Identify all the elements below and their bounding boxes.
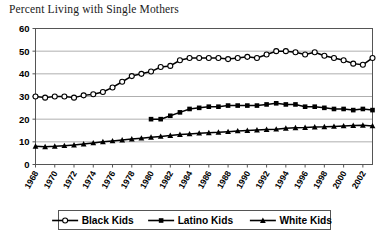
data-point-marker (33, 94, 38, 99)
data-point-marker (254, 55, 259, 60)
data-point-marker (312, 50, 317, 55)
data-point-marker (274, 49, 279, 54)
data-point-marker (62, 94, 67, 99)
x-tick-label: 1994 (273, 169, 291, 191)
data-point-marker (168, 113, 173, 118)
x-axis-labels: 1968197019721974197619781980198219841986… (22, 165, 368, 191)
chart-legend: Black KidsLatino KidsWhite Kids (52, 211, 332, 230)
y-tick-label: 20 (19, 114, 30, 125)
data-point-marker (370, 55, 375, 60)
data-point-marker (360, 62, 365, 67)
data-point-marker (207, 104, 212, 109)
data-point-marker (370, 108, 375, 113)
x-tick-label: 1998 (311, 169, 329, 191)
data-point-marker (187, 55, 192, 60)
data-point-marker (322, 106, 327, 111)
data-point-marker (110, 85, 115, 90)
y-tick-label: 40 (19, 68, 30, 79)
data-point-marker (129, 74, 134, 79)
data-point-marker (216, 55, 221, 60)
data-point-marker (341, 58, 346, 63)
data-point-marker (322, 53, 327, 58)
x-tick-label: 1970 (41, 169, 59, 191)
data-point-marker (235, 103, 240, 108)
x-tick-label: 1986 (196, 169, 214, 191)
data-point-marker (303, 104, 308, 109)
data-point-marker (351, 108, 356, 113)
data-point-marker (149, 69, 154, 74)
data-point-marker (284, 102, 289, 107)
data-point-marker (283, 49, 288, 54)
data-point-marker (303, 52, 308, 57)
x-tick-label: 2000 (330, 169, 348, 191)
chart-figure: Percent Living with Single Mothers 01020… (0, 0, 387, 242)
y-tick-label: 60 (19, 23, 30, 34)
data-point-marker (159, 218, 164, 223)
data-point-marker (158, 117, 163, 122)
data-point-marker (72, 95, 77, 100)
data-point-marker (177, 58, 182, 63)
data-point-marker (264, 102, 269, 107)
data-point-marker (255, 103, 260, 108)
data-point-marker (331, 55, 336, 60)
data-point-marker (149, 117, 154, 122)
data-point-marker (43, 95, 48, 100)
y-tick-label: 30 (19, 91, 30, 102)
x-tick-label: 1992 (253, 169, 271, 191)
x-tick-label: 1978 (118, 169, 136, 191)
data-point-marker (63, 218, 68, 223)
data-point-marker (312, 104, 317, 109)
chart-title: Percent Living with Single Mothers (9, 3, 179, 15)
x-tick-label: 1984 (176, 169, 194, 191)
data-point-marker (341, 107, 346, 112)
data-point-marker (226, 57, 231, 62)
data-point-marker (197, 106, 202, 111)
legend-label: Latino Kids (178, 215, 234, 226)
legend-label: White Kids (279, 215, 332, 226)
data-point-marker (206, 55, 211, 60)
x-tick-label: 1976 (99, 169, 117, 191)
data-point-marker (168, 63, 173, 68)
data-point-marker (235, 55, 240, 60)
data-point-marker (120, 79, 125, 84)
data-point-marker (226, 103, 231, 108)
data-point-marker (332, 107, 337, 112)
legend-label: Black Kids (82, 215, 134, 226)
x-tick-label: 1974 (80, 169, 98, 191)
data-point-marker (216, 104, 221, 109)
data-point-marker (178, 110, 183, 115)
data-point-marker (293, 102, 298, 107)
data-point-marker (91, 92, 96, 97)
data-point-marker (245, 54, 250, 59)
y-tick-label: 10 (19, 136, 30, 147)
x-tick-label: 1968 (22, 169, 40, 191)
data-point-marker (100, 89, 105, 94)
x-tick-label: 1980 (138, 169, 156, 191)
data-point-marker (158, 65, 163, 70)
data-point-marker (52, 94, 57, 99)
x-tick-label: 2002 (350, 169, 368, 191)
data-point-marker (264, 52, 269, 57)
chart-canvas: 0102030405060196819701972197419761978198… (0, 0, 387, 242)
data-point-marker (81, 93, 86, 98)
data-point-marker (274, 101, 279, 106)
y-tick-label: 50 (19, 46, 30, 57)
x-tick-label: 1982 (157, 169, 175, 191)
data-point-marker (187, 107, 192, 112)
y-tick-label: 0 (24, 159, 29, 170)
x-tick-label: 1990 (234, 169, 252, 191)
data-point-marker (293, 50, 298, 55)
x-tick-label: 1996 (292, 169, 310, 191)
data-point-marker (361, 107, 366, 112)
data-point-marker (351, 61, 356, 66)
x-tick-label: 1988 (215, 169, 233, 191)
data-point-marker (245, 103, 250, 108)
data-point-marker (139, 71, 144, 76)
data-point-marker (197, 55, 202, 60)
x-tick-label: 1972 (61, 169, 79, 191)
